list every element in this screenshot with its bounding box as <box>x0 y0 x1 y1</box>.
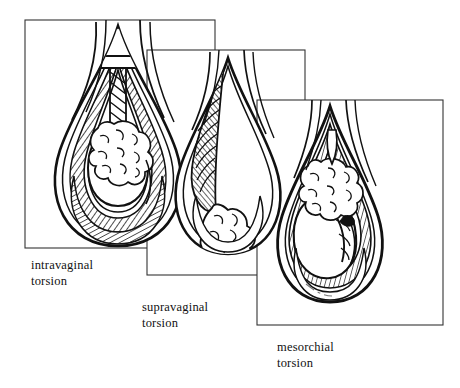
epididymis-3 <box>299 159 363 221</box>
caption-supravaginal-torsion: supravaginal torsion <box>142 300 208 331</box>
caption-mesorchial-torsion: mesorchial torsion <box>277 340 334 371</box>
cord-collar-1 <box>100 56 136 68</box>
illustration-canvas <box>0 0 460 388</box>
testicular-torsion-figure: intravaginal torsion supravaginal torsio… <box>0 0 460 388</box>
caption-intravaginal-torsion: intravaginal torsion <box>31 258 93 289</box>
